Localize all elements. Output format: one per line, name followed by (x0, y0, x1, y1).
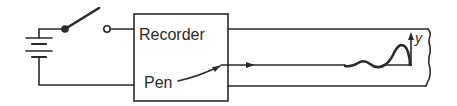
trace-direction-arrow-icon (246, 62, 255, 68)
recorder-label: Recorder (139, 26, 205, 43)
y-arrow-head-icon (408, 32, 414, 40)
y-axis-label: y (414, 30, 423, 46)
battery-top-wire (39, 29, 65, 38)
battery (26, 29, 134, 85)
pen-label: Pen (144, 74, 172, 91)
switch (62, 8, 134, 32)
paper-torn-edge (426, 29, 430, 86)
battery-bottom-wire (39, 57, 134, 85)
recorder-circuit-diagram: Recorder Pen y (0, 0, 457, 106)
switch-arm (65, 8, 99, 29)
trace-waveform (345, 45, 410, 67)
trace (228, 32, 414, 68)
chart-paper (228, 29, 430, 86)
